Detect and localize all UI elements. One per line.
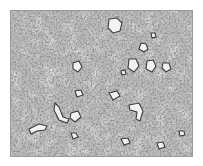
micrograph-texture xyxy=(11,11,193,157)
micrograph-image xyxy=(10,10,193,157)
